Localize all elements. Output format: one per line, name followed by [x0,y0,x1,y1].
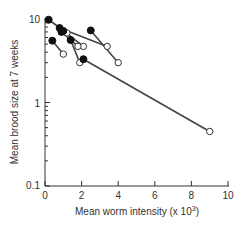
x-tick-label: 8 [189,190,195,201]
x-tick-label: 2 [79,190,85,201]
x-tick-label: 0 [42,190,48,201]
open-point [115,59,121,65]
open-point [104,43,110,49]
y-tick-label: 0.1 [26,180,40,191]
plot-area [45,16,213,134]
closed-point [80,56,87,63]
open-point [60,51,66,57]
closed-point [58,28,65,35]
connector-line [83,59,209,131]
y-tick-label: 1 [34,98,40,109]
closed-point [45,16,52,23]
y-tick-label: 10 [29,14,41,25]
chart: 0.1 1 10 0 2 4 6 8 10 Mean worm intensit… [0,0,242,225]
x-tick-label: 4 [115,190,121,201]
closed-point [87,27,94,34]
x-tick-label: 6 [152,190,158,201]
closed-point [67,37,74,44]
x-axis-title: Mean worm intensity (x 103) [75,205,199,217]
x-tick-label: 10 [222,190,234,201]
y-axis-title: Mean brood size at 7 weeks [9,40,20,165]
closed-point [49,37,56,44]
open-point [75,43,81,49]
open-point [207,128,213,134]
